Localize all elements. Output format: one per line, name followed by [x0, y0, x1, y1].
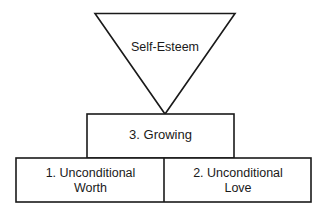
self-esteem-pyramid-diagram: Self-Esteem 3. Growing 1. Unconditional …	[0, 0, 328, 215]
self-esteem-triangle	[95, 14, 235, 115]
diagram-shapes	[0, 0, 328, 215]
growing-box	[87, 114, 234, 158]
